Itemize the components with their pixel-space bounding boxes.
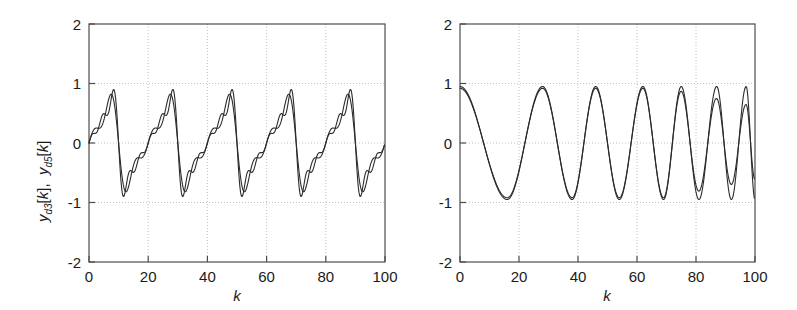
data-curve-yc5 bbox=[460, 86, 754, 199]
xtick-label-right-5: 100 bbox=[742, 268, 767, 285]
ytick-label-right-1: 1 bbox=[444, 75, 452, 92]
xtick-label-right-1: 20 bbox=[511, 268, 528, 285]
x-axis-label-left: k bbox=[233, 287, 242, 304]
y-axis-label-left: yd3[k], yd5[k] bbox=[34, 141, 54, 222]
xtick-label-right-0: 0 bbox=[456, 268, 464, 285]
xtick-label-left-5: 100 bbox=[372, 268, 397, 285]
data-curve-yd5 bbox=[89, 89, 384, 196]
xtick-label-left-2: 40 bbox=[199, 268, 216, 285]
plot-left: 2 1 0 -1 -2 0 20 40 60 80 100 k bbox=[0, 0, 400, 310]
chart-panel-left: yd3[k], yd5[k] bbox=[0, 0, 400, 310]
xtick-label-right-2: 40 bbox=[570, 268, 587, 285]
ytick-label-left-4: -2 bbox=[68, 254, 81, 271]
x-axis-label-right: k bbox=[603, 287, 612, 304]
xtick-label-left-4: 80 bbox=[317, 268, 334, 285]
xtick-label-left-1: 20 bbox=[140, 268, 157, 285]
ytick-label-left-1: 1 bbox=[73, 75, 81, 92]
ytick-label-right-0: 2 bbox=[444, 16, 452, 33]
ytick-label-left-3: -1 bbox=[68, 194, 81, 211]
xtick-label-left-0: 0 bbox=[85, 268, 93, 285]
xtick-label-left-3: 60 bbox=[258, 268, 275, 285]
ytick-label-left-0: 2 bbox=[73, 16, 81, 33]
ytick-label-right-2: 0 bbox=[444, 135, 452, 152]
ytick-label-left-2: 0 bbox=[73, 135, 81, 152]
chart-panel-right: yc3[k], yc5[k] bbox=[400, 0, 797, 310]
figure-container: yd3[k], yd5[k] bbox=[0, 0, 797, 310]
ytick-label-right-4: -2 bbox=[439, 254, 452, 271]
series-group-left bbox=[89, 89, 384, 196]
series-group-right bbox=[460, 86, 754, 199]
xtick-label-right-4: 80 bbox=[688, 268, 705, 285]
xtick-label-right-3: 60 bbox=[629, 268, 646, 285]
plot-right: 2 1 0 -1 -2 0 20 40 60 80 100 k bbox=[400, 0, 797, 310]
ytick-label-right-3: -1 bbox=[439, 194, 452, 211]
